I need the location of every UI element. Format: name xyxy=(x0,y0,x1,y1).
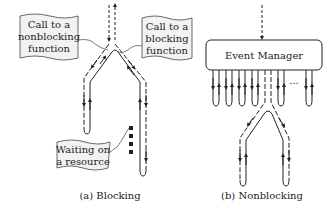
callout-nonblocking-call: Call to a nonblocking function xyxy=(18,14,108,60)
fork-inner xyxy=(246,111,283,180)
callout-text-line1: Waiting on xyxy=(56,144,111,155)
callout-text-line2: blocking xyxy=(145,33,189,44)
callout-waiting: Waiting on a resource xyxy=(56,128,129,170)
nonblocking-panel xyxy=(206,5,322,186)
callout-text-line2: nonblocking xyxy=(18,31,81,42)
fork-right-outer xyxy=(271,70,289,180)
ellipsis: ... xyxy=(289,75,299,86)
event-manager-label: Event Manager xyxy=(225,50,303,61)
callout-text-line1: Call to a xyxy=(146,21,188,32)
left-u-turn xyxy=(84,128,90,134)
callout-text-line1: Call to a xyxy=(28,19,70,30)
caption-blocking: (a) Blocking xyxy=(79,190,141,201)
fork-left-u xyxy=(240,180,246,186)
callout-text-line2: a resource xyxy=(56,156,110,167)
callout-text-line3: function xyxy=(146,45,188,56)
right-u-turn xyxy=(140,170,146,176)
callout-text-line3: function xyxy=(28,43,70,54)
diagram-canvas: Call to a nonblocking function Call to a… xyxy=(0,0,332,210)
left-branch-outer xyxy=(84,44,109,128)
waiting-blocks xyxy=(129,126,133,154)
fork-right-u xyxy=(283,180,289,186)
caption-nonblocking: (b) Nonblocking xyxy=(221,190,304,201)
callout-blocking-call: Call to a blocking function xyxy=(118,16,192,60)
